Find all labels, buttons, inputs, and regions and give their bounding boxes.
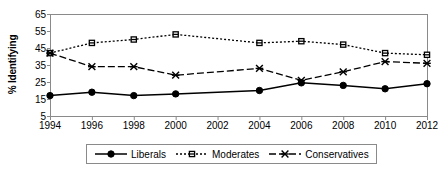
data-point-marker [172,91,178,97]
data-point-marker [47,92,53,98]
chart-legend: LiberalsModeratesConservatives [86,144,377,164]
series-conservatives [46,50,431,84]
series-liberals [47,80,430,99]
data-point-marker [256,87,262,93]
data-point-marker [340,82,346,88]
series-moderates [47,32,429,58]
plot-frame [51,15,428,117]
series-line [50,83,427,96]
legend-label: Conservatives [305,149,368,160]
data-series-group [46,32,431,99]
legend-label: Moderates [212,149,259,160]
data-point-marker [382,86,388,92]
legend-item-conservatives[interactable]: Conservatives [268,148,368,160]
line-chart: % Identifying 6555453525155 199419961998… [0,0,445,171]
data-point-marker [108,151,114,157]
data-point-marker [424,81,430,87]
legend-swatch-x-icon [268,148,302,160]
data-point-marker [89,89,95,95]
legend-item-moderates[interactable]: Moderates [175,148,259,160]
legend-item-liberals[interactable]: Liberals [94,148,166,160]
data-point-marker [131,92,137,98]
series-line [50,53,427,80]
series-line [50,34,427,54]
legend-swatch-filled-circle-icon [94,148,128,160]
legend-swatch-square-icon [175,148,209,160]
legend-label: Liberals [131,149,166,160]
y-axis-ticks [47,15,50,117]
